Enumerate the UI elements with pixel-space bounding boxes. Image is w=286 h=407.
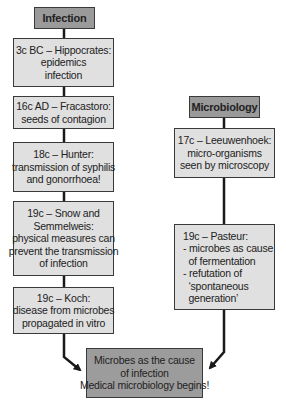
box-text: 17c – Leeuwenhoek: (178, 134, 271, 147)
box-text: - refutation of (183, 267, 242, 280)
box-text: disease from microbes (13, 304, 114, 317)
arrow-right (210, 309, 224, 368)
koch-box: 19c – Koch: disease from microbes propag… (13, 287, 114, 334)
box-text: 16c AD – Fracastoro: (16, 100, 111, 113)
box-text: 19c – Snow and (27, 207, 100, 220)
box-text: physical measures can (12, 232, 115, 245)
box-text: transmission of syphilis (12, 161, 115, 174)
box-text: Medical microbiology begins! (80, 379, 209, 392)
leeuwenhoek-box: 17c – Leeuwenhoek: micro-organisms seen … (174, 128, 275, 178)
hunter-box: 18c – Hunter: transmission of syphilis a… (13, 142, 114, 192)
box-text: propagated in vitro (22, 317, 105, 330)
box-text: of fermentation (183, 255, 255, 268)
box-text: and gonorrhoea! (26, 173, 100, 186)
box-text: 3c BC – Hippocrates: (16, 44, 111, 57)
snow-semmelweis-box: 19c – Snow and Semmelweis: physical meas… (13, 201, 114, 276)
conclusion-box: Microbes as the cause of infection Medic… (86, 348, 203, 398)
microbiology-header: Microbiology (189, 96, 260, 118)
box-text: of infection (120, 367, 168, 380)
box-text: 18c – Hunter: (33, 148, 93, 161)
box-text: prevent the transmission (9, 245, 119, 258)
box-text: infection (45, 69, 82, 82)
box-text: epidemics (41, 56, 86, 69)
box-text: seeds of contagion (21, 113, 106, 126)
hippocrates-box: 3c BC – Hippocrates: epidemics infection (13, 38, 114, 87)
box-text: 19c – Pasteur: (183, 230, 248, 243)
header-label: Infection (42, 12, 86, 25)
box-text: micro-organisms (187, 147, 262, 160)
box-text: Semmelweis: (33, 220, 93, 233)
pasteur-box: 19c – Pasteur: - microbes as cause of fe… (174, 224, 275, 310)
box-text: generation’ (183, 292, 238, 305)
fracastoro-box: 16c AD – Fracastoro: seeds of contagion (13, 96, 114, 129)
header-label: Microbiology (191, 101, 257, 114)
box-text: ‘spontaneous (183, 280, 249, 293)
box-text: - microbes as cause (183, 242, 273, 255)
box-text: of infection (39, 257, 87, 270)
box-text: seen by microscopy (180, 159, 269, 172)
box-text: 19c – Koch: (37, 292, 90, 305)
infection-header: Infection (34, 7, 95, 29)
box-text: Microbes as the cause (94, 354, 195, 367)
arrow-left (64, 333, 80, 370)
